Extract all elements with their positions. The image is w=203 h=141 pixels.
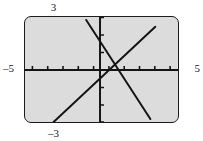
window-label-xmin: –5 [3, 63, 14, 74]
calculator-screen [24, 16, 179, 123]
series-line-ascending [54, 27, 156, 122]
plot-area [25, 17, 178, 122]
window-label-ymax: 3 [0, 2, 203, 13]
graphing-calculator-figure: 3 –3 –5 5 [0, 0, 203, 141]
window-label-xmax: 5 [195, 63, 201, 74]
window-label-ymin: –3 [0, 128, 203, 139]
